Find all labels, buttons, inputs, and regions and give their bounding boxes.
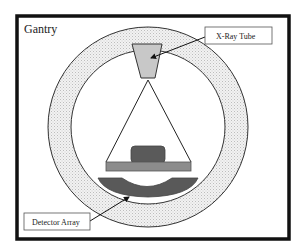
patient-table bbox=[106, 162, 191, 171]
gantry-label: Gantry bbox=[24, 22, 57, 36]
patient-object bbox=[131, 146, 165, 163]
xray-tube-label: X-Ray Tube bbox=[216, 32, 256, 41]
detector-array-label: Detector Array bbox=[32, 218, 80, 227]
ct-scanner-diagram: Gantry X-Ray Tube Detector Array bbox=[0, 0, 305, 252]
